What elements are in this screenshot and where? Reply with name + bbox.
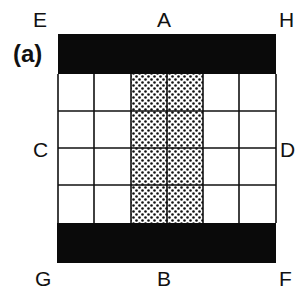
top-black-band <box>58 34 276 74</box>
grid-lines <box>58 74 276 223</box>
bottom-black-band <box>57 223 276 263</box>
grid-diagram <box>0 0 302 295</box>
